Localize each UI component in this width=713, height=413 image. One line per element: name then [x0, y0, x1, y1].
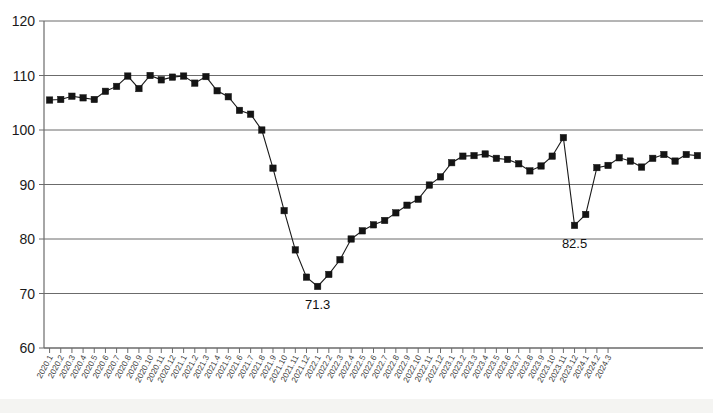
chart-canvas: 60708090100110120 2020.12020.22020.32020… [0, 0, 713, 413]
data-point-marker [471, 152, 477, 158]
data-point-marker [672, 158, 678, 164]
data-label: 71.3 [305, 297, 330, 312]
data-point-marker [683, 151, 689, 157]
data-point-marker [370, 222, 376, 228]
data-series-line [50, 76, 698, 287]
series-polyline [50, 76, 698, 287]
data-point-marker [102, 88, 108, 94]
data-point-marker [281, 207, 287, 213]
data-point-marker [661, 151, 667, 157]
data-point-marker [158, 77, 164, 83]
gridlines [44, 21, 703, 348]
data-point-marker [169, 74, 175, 80]
y-tick-label: 70 [19, 286, 35, 302]
y-tick-label: 100 [12, 122, 36, 138]
data-point-marker [594, 164, 600, 170]
data-point-marker [337, 257, 343, 263]
data-point-marker [638, 164, 644, 170]
data-point-marker [694, 152, 700, 158]
data-point-marker [560, 134, 566, 140]
y-axis [39, 21, 44, 348]
data-point-marker [180, 73, 186, 79]
data-point-marker [482, 151, 488, 157]
data-point-marker [214, 88, 220, 94]
data-point-marker [292, 247, 298, 253]
y-tick-label: 60 [19, 340, 35, 356]
data-point-marker [516, 161, 522, 167]
data-point-marker [192, 80, 198, 86]
data-point-marker [80, 95, 86, 101]
data-point-marker [381, 217, 387, 223]
data-point-marker [504, 156, 510, 162]
data-point-marker [460, 153, 466, 159]
data-point-marker [326, 271, 332, 277]
data-point-marker [58, 96, 64, 102]
data-point-marker [247, 111, 253, 117]
data-point-marker [527, 168, 533, 174]
data-point-marker [650, 155, 656, 161]
data-point-marker [437, 174, 443, 180]
data-point-marker [136, 85, 142, 91]
y-tick-label: 90 [19, 177, 35, 193]
footer-strip [0, 399, 713, 413]
data-point-marker [538, 163, 544, 169]
data-point-marker [270, 165, 276, 171]
y-axis-tick-labels: 60708090100110120 [12, 13, 36, 356]
data-point-marker [448, 160, 454, 166]
data-point-marker [393, 210, 399, 216]
x-axis-tick-labels: 2020.12020.22020.32020.42020.52020.62020… [35, 353, 613, 384]
data-point-marker [493, 155, 499, 161]
data-point-marker [549, 153, 555, 159]
data-point-marker [605, 162, 611, 168]
data-point-marker [147, 72, 153, 78]
data-point-marker [259, 127, 265, 133]
data-point-marker [113, 83, 119, 89]
data-point-marker [426, 182, 432, 188]
data-annotations: 71.382.5 [305, 236, 587, 312]
data-point-marker [616, 155, 622, 161]
data-point-marker [236, 107, 242, 113]
data-point-markers [46, 72, 700, 289]
data-label: 82.5 [562, 236, 587, 251]
data-point-marker [571, 222, 577, 228]
data-point-marker [69, 93, 75, 99]
data-point-marker [225, 94, 231, 100]
data-point-marker [314, 283, 320, 289]
data-point-marker [627, 158, 633, 164]
data-point-marker [348, 236, 354, 242]
line-chart: 60708090100110120 2020.12020.22020.32020… [0, 0, 713, 413]
y-tick-label: 120 [12, 13, 36, 29]
x-axis-tickmarks [50, 348, 608, 353]
y-tick-label: 80 [19, 231, 35, 247]
data-point-marker [415, 196, 421, 202]
data-point-marker [91, 96, 97, 102]
y-tick-label: 110 [13, 68, 36, 84]
data-point-marker [303, 274, 309, 280]
data-point-marker [404, 202, 410, 208]
data-point-marker [203, 73, 209, 79]
data-point-marker [359, 228, 365, 234]
data-point-marker [583, 211, 589, 217]
data-point-marker [46, 97, 52, 103]
data-point-marker [125, 73, 131, 79]
